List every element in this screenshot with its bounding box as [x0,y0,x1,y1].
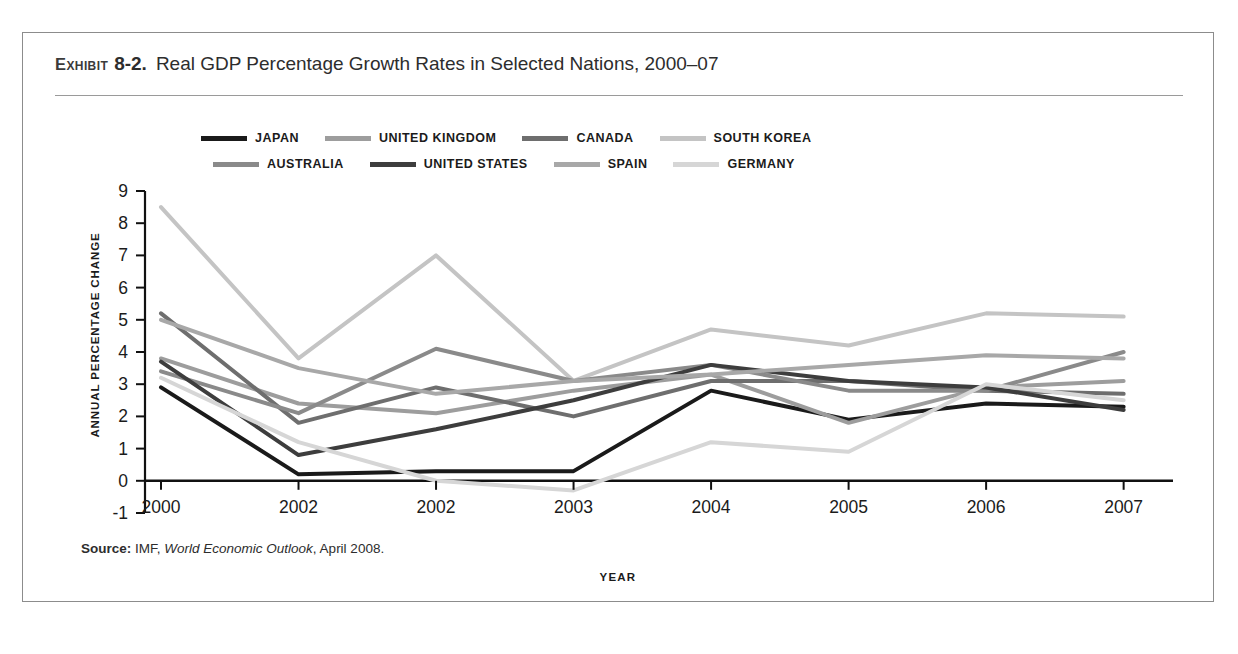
y-tick-label: 5 [118,310,128,330]
exhibit-number: 8-2. [114,53,147,75]
page-title: Real GDP Percentage Growth Rates in Sele… [156,53,719,75]
x-tick-label: 2002 [417,497,456,517]
source-publication: World Economic Outlook [164,541,313,556]
x-tick-label: 2007 [1104,497,1143,517]
x-tick-label: 2004 [692,497,731,517]
y-tick-label: 7 [118,245,128,265]
y-tick-label: 3 [118,374,128,394]
x-tick-label: 2000 [142,497,181,517]
source-prefix: Source: [81,541,131,556]
x-tick-label: 2002 [279,497,318,517]
x-tick-label: 2005 [829,497,868,517]
exhibit-label: EXHIBIT [55,55,108,74]
line-chart: 9876543210-12000200220022003200420052006… [53,133,1183,565]
source-agency: IMF, [135,541,161,556]
y-tick-label: 8 [118,213,128,233]
y-tick-label: 0 [118,471,128,491]
y-axis-title: ANNUAL PERCENTAGE CHANGE [89,185,101,485]
y-tick-label: 1 [118,439,128,459]
title-divider [55,95,1183,96]
y-tick-label: 2 [118,406,128,426]
y-tick-label: 4 [118,342,128,362]
source-date: , April 2008. [313,541,384,556]
x-axis-title: YEAR [53,571,1183,583]
x-tick-label: 2003 [554,497,593,517]
y-tick-label: 9 [118,181,128,201]
y-tick-label: 6 [118,278,128,298]
x-tick-label: 2006 [967,497,1006,517]
plot-area: ANNUAL PERCENTAGE CHANGE 9876543210-1200… [53,133,1183,553]
exhibit-frame: EXHIBIT 8-2. Real GDP Percentage Growth … [22,32,1214,602]
exhibit-title-row: EXHIBIT 8-2. Real GDP Percentage Growth … [55,53,1185,93]
y-tick-label: -1 [112,503,128,523]
source-note: Source: IMF, World Economic Outlook, Apr… [81,541,384,556]
